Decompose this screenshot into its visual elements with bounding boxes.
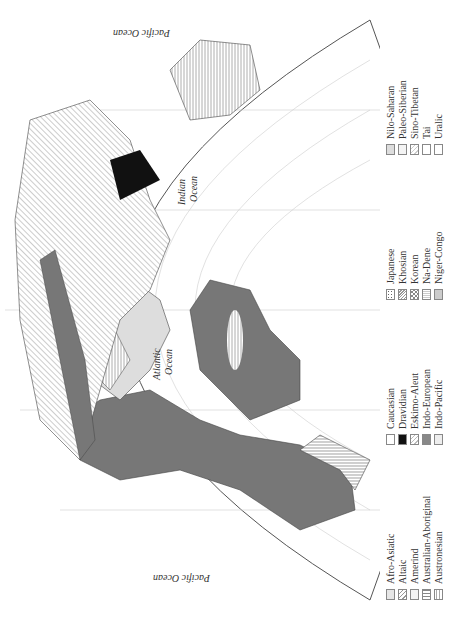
svg-text:Pacific Ocean: Pacific Ocean bbox=[153, 573, 211, 584]
swatch-icon bbox=[410, 289, 419, 300]
swatch-icon bbox=[422, 589, 431, 600]
swatch-icon bbox=[422, 144, 431, 155]
swatch-icon bbox=[434, 144, 443, 155]
swatch-icon bbox=[398, 589, 407, 600]
amerind-patch bbox=[227, 310, 243, 370]
swatch-icon bbox=[410, 144, 419, 155]
swatch-icon bbox=[398, 144, 407, 155]
world-map: Pacific Ocean AtlanticOcean IndianOcean … bbox=[0, 0, 380, 620]
svg-text:Pacific Ocean: Pacific Ocean bbox=[113, 28, 171, 39]
legend-col-4: Nilo-Saharan Paleo-Siberian Sino-Tibetan… bbox=[385, 80, 445, 155]
swatch-icon bbox=[434, 289, 443, 300]
svg-text:Indian: Indian bbox=[176, 179, 187, 206]
swatch-icon bbox=[422, 434, 431, 445]
swatch-icon bbox=[434, 434, 443, 445]
swatch-icon bbox=[410, 589, 419, 600]
swatch-icon bbox=[386, 589, 395, 600]
svg-text:Atlantic: Atlantic bbox=[151, 348, 162, 381]
swatch-icon bbox=[386, 144, 395, 155]
swatch-icon bbox=[434, 589, 443, 600]
swatch-icon bbox=[386, 434, 395, 445]
legend-col-3: Japanese Khosian Korean Na-Dene Niger-Co… bbox=[385, 231, 445, 300]
swatch-icon bbox=[410, 434, 419, 445]
swatch-icon bbox=[386, 289, 395, 300]
swatch-icon bbox=[398, 434, 407, 445]
legend-col-1: Afro-Asiatic Altaic Amerind Australian-A… bbox=[385, 496, 445, 600]
svg-text:Ocean: Ocean bbox=[163, 349, 174, 375]
legend-col-2: Caucasian Dravidian Eskimo-Aleut Indo-Eu… bbox=[385, 369, 445, 445]
swatch-icon bbox=[422, 289, 431, 300]
legend: Afro-Asiatic Altaic Amerind Australian-A… bbox=[385, 0, 445, 620]
svg-text:Ocean: Ocean bbox=[188, 176, 199, 202]
rotated-page: Pacific Ocean AtlanticOcean IndianOcean … bbox=[0, 0, 455, 620]
swatch-icon bbox=[398, 289, 407, 300]
